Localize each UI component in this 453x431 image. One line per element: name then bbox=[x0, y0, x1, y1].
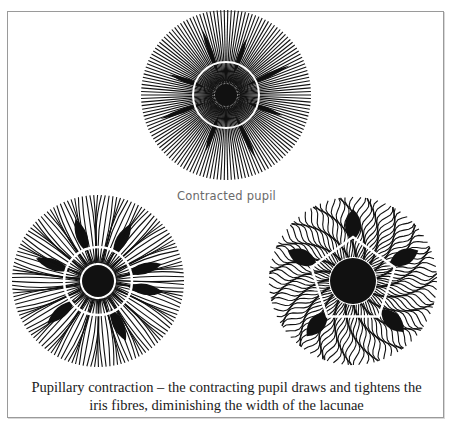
caption-line-2: iris fibres, diminishing the width of th… bbox=[20, 396, 433, 414]
dilated-pupil-iris-illustration bbox=[265, 193, 441, 369]
caption-line-1: Pupillary contraction – the contracting … bbox=[20, 378, 433, 396]
medium-pupil-iris-illustration bbox=[10, 193, 186, 369]
contracted-pupil-iris-illustration bbox=[139, 8, 313, 182]
figure-caption: Pupillary contraction – the contracting … bbox=[20, 378, 433, 414]
